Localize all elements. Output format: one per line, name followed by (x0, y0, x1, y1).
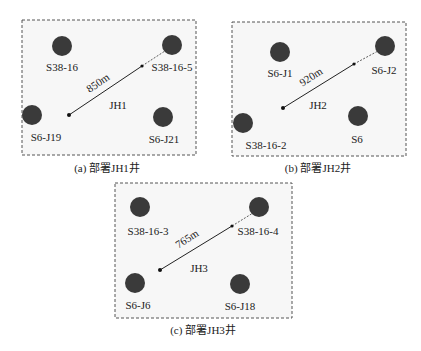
target-dot-icon (140, 64, 143, 67)
well-icon (153, 107, 173, 127)
well-label: S6-J21 (149, 133, 180, 145)
well-icon (22, 105, 42, 125)
wellhead-dot-icon (67, 113, 71, 117)
target-dot-icon (230, 224, 233, 227)
well-label: S6-J19 (31, 131, 62, 143)
well-deployment-diagram: S38-16 S38-16-5 S6-J19 S6-J21 850m JH1 (… (0, 0, 421, 351)
well-icon (230, 274, 250, 294)
panel-caption: (b) 部署JH2井 (285, 161, 351, 175)
well-label: S38-16-2 (246, 139, 287, 151)
well-icon (130, 197, 150, 217)
well-label: S6-J1 (267, 67, 292, 79)
well-label: S38-16-3 (128, 225, 169, 237)
new-well-label: JH2 (309, 99, 327, 111)
panel-a: S38-16 S38-16-5 S6-J19 S6-J21 850m JH1 (22, 20, 196, 155)
well-icon (249, 197, 269, 217)
well-label: S38-16-4 (238, 225, 279, 237)
well-icon (125, 273, 145, 293)
panel-b: S6-J1 S6-J2 S38-16-2 S6 920m JH2 (232, 22, 406, 156)
well-icon (162, 35, 182, 55)
panel-caption: (a) 部署JH1井 (74, 161, 140, 175)
well-icon (348, 106, 368, 126)
new-well-label: JH3 (190, 262, 208, 274)
well-label: S6 (351, 133, 363, 145)
well-label: S6-J18 (225, 300, 256, 312)
target-dot-icon (352, 62, 355, 65)
wellhead-dot-icon (281, 106, 285, 110)
well-label: S6-J6 (125, 299, 151, 311)
new-well-label: JH1 (109, 99, 127, 111)
well-label: S38-16-5 (152, 61, 193, 73)
panel-c: S38-16-3 S38-16-4 S6-J6 S6-J18 765m JH3 (115, 183, 292, 318)
well-icon (375, 36, 395, 56)
well-icon (233, 113, 253, 133)
panel-caption: (c) 部署JH3井 (170, 323, 236, 337)
well-label: S6-J2 (371, 64, 396, 76)
well-label: S38-16 (46, 61, 78, 73)
well-icon (270, 42, 290, 62)
wellhead-dot-icon (158, 268, 162, 272)
well-icon (52, 36, 72, 56)
